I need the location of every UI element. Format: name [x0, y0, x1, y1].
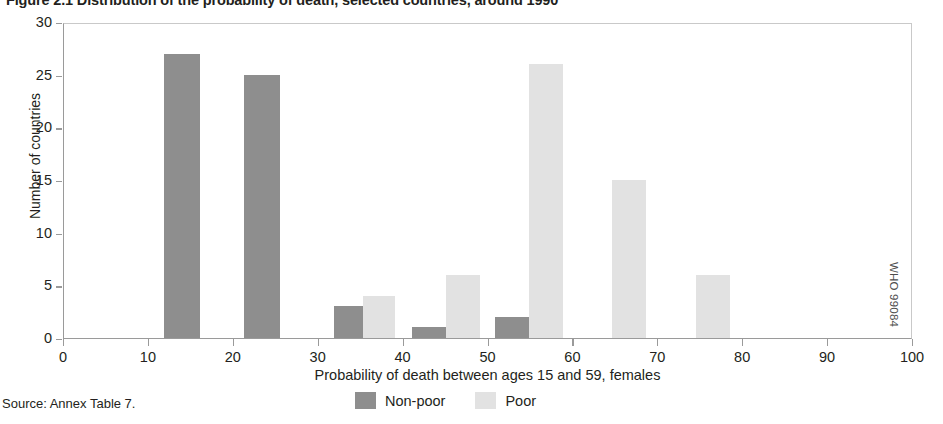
x-axis-tick-label: 70	[637, 349, 677, 365]
x-axis-tick-label: 40	[383, 349, 423, 365]
histogram-bar-nonpoor	[244, 75, 280, 338]
x-axis-label: Probability of death between ages 15 and…	[63, 367, 912, 383]
x-axis-tick-mark	[148, 339, 149, 346]
x-axis-tick-label: 20	[213, 349, 253, 365]
y-axis-tick-mark	[56, 128, 62, 129]
y-axis-tick: 15	[0, 181, 62, 182]
histogram-bar-poor	[696, 275, 730, 338]
x-axis-tick-label: 100	[892, 349, 932, 365]
y-axis-tick-label: 25	[36, 67, 52, 83]
y-axis-tick-label: 15	[36, 172, 52, 188]
x-axis-tick-label: 10	[128, 349, 168, 365]
x-axis-tick-label: 60	[552, 349, 592, 365]
figure-container: Figure 2.1 Distribution of the probabili…	[0, 0, 943, 424]
x-axis-tick-mark	[657, 339, 658, 346]
x-axis-tick-label: 80	[722, 349, 762, 365]
legend-swatch-icon	[355, 392, 376, 409]
chart-legend: Non-poorPoor	[355, 392, 536, 409]
y-axis-tick: 10	[0, 234, 62, 235]
y-axis-tick: 5	[0, 286, 62, 287]
y-axis-tick-label: 10	[36, 225, 52, 241]
x-axis-tick-mark	[63, 339, 64, 346]
histogram-bar-nonpoor	[412, 327, 446, 338]
y-axis-tick: 20	[0, 128, 62, 129]
legend-swatch-icon	[475, 392, 496, 409]
legend-item: Non-poor	[355, 392, 445, 409]
x-axis-tick-label: 0	[43, 349, 83, 365]
x-axis-tick-mark	[912, 339, 913, 346]
legend-item-label: Poor	[505, 393, 536, 409]
y-axis-tick-mark	[56, 181, 62, 182]
y-axis-tick-label: 20	[36, 119, 52, 135]
plot-area	[63, 23, 912, 339]
x-axis-tick-label: 90	[807, 349, 847, 365]
x-axis-tick-mark	[403, 339, 404, 346]
y-axis-tick-label: 30	[36, 14, 52, 30]
y-axis-tick-mark	[56, 286, 62, 287]
histogram-bar-poor	[529, 64, 563, 338]
source-note: Source: Annex Table 7.	[2, 396, 135, 411]
y-axis-tick: 0	[0, 339, 62, 340]
y-axis-tick: 25	[0, 76, 62, 77]
x-axis-tick-mark	[742, 339, 743, 346]
histogram-bar-poor	[363, 296, 395, 338]
histogram-bar-poor	[612, 180, 646, 338]
y-axis-tick-mark	[56, 23, 62, 24]
histogram-bar-poor	[446, 275, 480, 338]
x-axis-tick-label: 30	[298, 349, 338, 365]
figure-title: Figure 2.1 Distribution of the probabili…	[6, 0, 558, 8]
x-axis-tick-label: 50	[468, 349, 508, 365]
legend-item: Poor	[475, 392, 536, 409]
histogram-bar-nonpoor	[334, 306, 363, 338]
credit-code: WHO 99084	[888, 262, 900, 327]
x-axis-tick-mark	[233, 339, 234, 346]
x-axis-tick-mark	[318, 339, 319, 346]
x-axis-tick-mark	[488, 339, 489, 346]
y-axis-tick-label: 5	[44, 277, 52, 293]
y-axis-tick-label: 0	[44, 330, 52, 346]
y-axis-label: Number of countries	[27, 61, 43, 251]
x-axis-tick-mark	[827, 339, 828, 346]
y-axis-tick-mark	[56, 234, 62, 235]
y-axis-tick-mark	[56, 339, 62, 340]
histogram-bar-nonpoor	[164, 54, 200, 338]
histogram-bar-nonpoor	[495, 317, 529, 338]
x-axis-tick-mark	[572, 339, 573, 346]
legend-item-label: Non-poor	[385, 393, 445, 409]
y-axis-tick: 30	[0, 23, 62, 24]
y-axis-tick-mark	[56, 76, 62, 77]
